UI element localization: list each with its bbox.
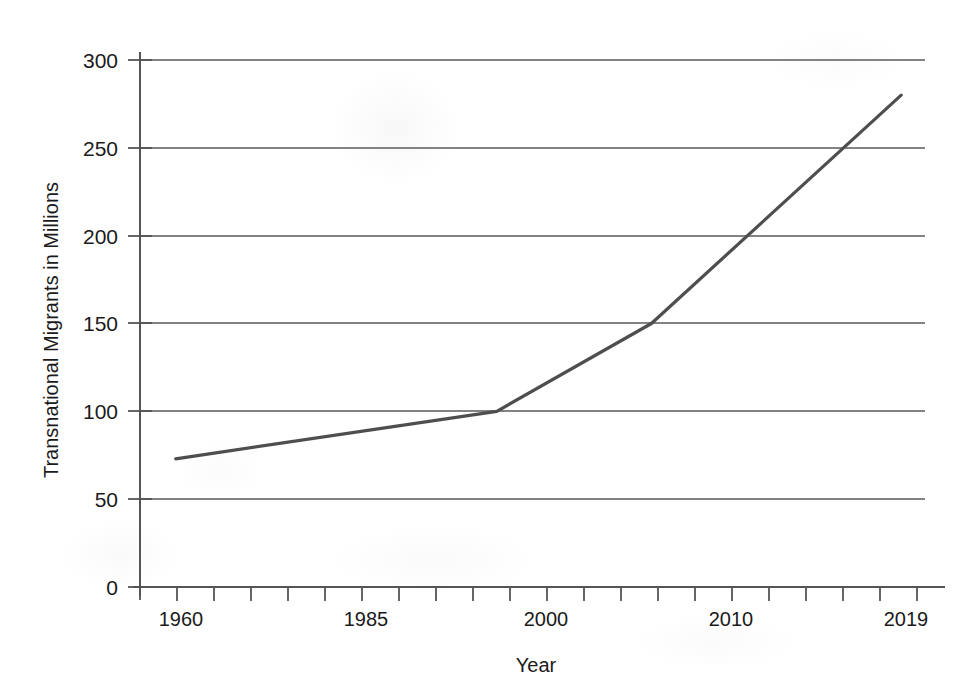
y-tick-label: 0 [106, 576, 118, 599]
y-tick-label: 150 [83, 312, 118, 335]
x-tick-label: 1985 [344, 608, 389, 630]
x-tick-marks [140, 578, 917, 601]
y-tick-label: 300 [83, 49, 118, 72]
data-line-transnational-migrants [176, 95, 902, 459]
y-tick-label: 50 [95, 488, 118, 511]
chart-svg: 300 250 200 150 100 50 0 Transnational M… [0, 0, 971, 698]
y-axis-title: Transnational Migrants in Millions [40, 182, 62, 478]
y-tick-label: 100 [83, 400, 118, 423]
y-tick-label: 250 [83, 137, 118, 160]
x-tick-label: 2010 [709, 608, 754, 630]
x-axis-title: Year [516, 654, 557, 676]
x-tick-labels: 1960 1985 2000 2010 2019 [159, 608, 929, 630]
y-tick-labels: 300 250 200 150 100 50 0 [83, 49, 118, 599]
gridlines [140, 60, 925, 499]
y-tick-label: 200 [83, 225, 118, 248]
x-tick-label: 1960 [159, 608, 204, 630]
line-chart-figure: 300 250 200 150 100 50 0 Transnational M… [0, 0, 971, 698]
x-tick-label: 2019 [884, 608, 929, 630]
x-tick-label: 2000 [524, 608, 569, 630]
